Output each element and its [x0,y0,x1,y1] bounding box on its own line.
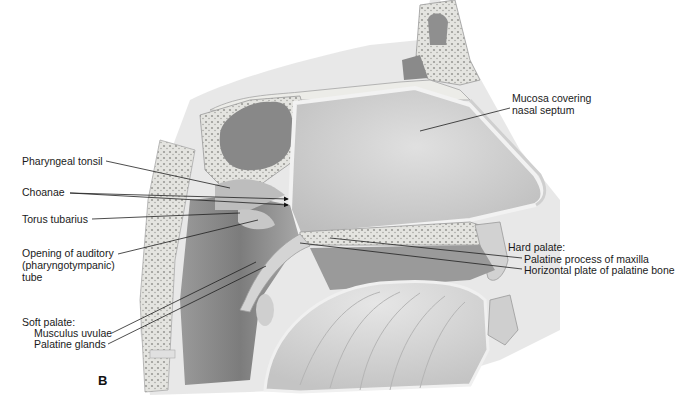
label-auditory-tube-line3: tube [22,271,42,283]
label-mucosa-line1: Mucosa covering [512,92,591,104]
label-hard-palate-heading: Hard palate: [508,241,565,253]
label-auditory-tube-line2: (pharyngotympanic) [22,259,115,271]
label-choanae: Choanae [22,186,65,198]
vertebral-disc [150,350,175,358]
nasal-septum [290,88,543,235]
frontal-sinus-upper [428,14,448,46]
label-palatine-glands: Palatine glands [34,338,106,350]
uvula-tonsil [256,294,274,326]
panel-letter: B [98,373,107,388]
label-pharyngeal-tonsil: Pharyngeal tonsil [22,155,103,167]
label-mucosa-line2: nasal septum [512,104,574,116]
label-torus-tubarius: Torus tubarius [22,213,88,225]
label-horizontal-plate: Horizontal plate of palatine bone [524,264,675,276]
label-auditory-tube-line1: Opening of auditory [22,247,114,259]
